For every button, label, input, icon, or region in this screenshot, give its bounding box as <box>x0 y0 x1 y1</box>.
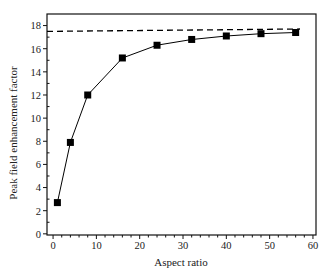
square-marker <box>54 199 61 206</box>
y-tick-label: 14 <box>31 67 42 78</box>
x-axis-label: Aspect ratio <box>154 256 208 268</box>
x-tick-label: 30 <box>178 240 189 251</box>
x-tick-label: 20 <box>134 240 145 251</box>
y-tick-label: 12 <box>31 90 42 101</box>
y-tick-label: 18 <box>31 20 42 31</box>
plot-frame <box>47 14 316 235</box>
square-marker <box>257 30 264 37</box>
square-marker <box>67 139 74 146</box>
y-axis-label: Peak field enhancement factor <box>7 66 19 200</box>
y-tick-label: 0 <box>36 229 41 240</box>
square-marker <box>84 91 91 98</box>
x-tick-label: 0 <box>50 240 55 251</box>
y-tick-label: 4 <box>36 182 42 193</box>
y-tick-label: 16 <box>31 44 42 55</box>
square-marker <box>154 42 161 49</box>
square-marker <box>223 32 230 39</box>
x-tick-label: 40 <box>221 240 232 251</box>
x-tick-label: 10 <box>91 240 102 251</box>
x-axis-ticks: 0102030405060 <box>50 235 318 251</box>
data-series <box>47 29 300 206</box>
x-tick-label: 50 <box>264 240 275 251</box>
x-tick-label: 60 <box>308 240 319 251</box>
y-tick-label: 10 <box>31 113 42 124</box>
square-marker <box>119 54 126 61</box>
square-marker <box>188 36 195 43</box>
square-marker <box>292 29 299 36</box>
chart: 0102030405060 024681012141618 Aspect rat… <box>0 0 329 277</box>
y-tick-label: 2 <box>36 206 41 217</box>
y-tick-label: 8 <box>36 136 41 147</box>
y-tick-label: 6 <box>36 159 41 170</box>
series-line <box>57 33 295 203</box>
